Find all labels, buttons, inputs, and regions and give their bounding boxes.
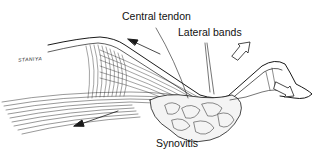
proximal-pull-arrow-bottom (78, 111, 118, 125)
dorsal-force-arrow (232, 42, 250, 60)
label-synovitis: Synovitis (156, 138, 198, 149)
synovitis-mass (150, 95, 241, 142)
volar-force-arrow (274, 82, 294, 97)
finger-anatomy-drawing (0, 0, 314, 150)
label-central-tendon: Central tendon (122, 11, 191, 22)
dorsal-contour (48, 37, 312, 99)
label-lateral-bands: Lateral bands (178, 27, 242, 38)
